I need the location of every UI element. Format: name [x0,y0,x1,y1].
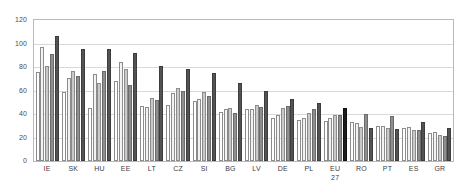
x-axis-label-line1: EU [330,165,340,172]
y-axis-tick-100: 100 [15,39,27,46]
bar-EE-2012 [133,53,137,161]
x-axis-label-line1: LV [252,165,260,172]
bar-EE-2000 [119,62,123,161]
bar-HU-2012 [107,49,111,161]
x-axis-label-RO: RO [348,164,374,193]
bar-HU-2009 [102,71,106,161]
bar-DE-2005 [281,108,285,161]
bar-BG-2012 [238,83,242,161]
x-axis-label-line1: LT [148,165,156,172]
bar-LV-2000 [250,109,254,161]
x-axis-label-BG: BG [217,164,243,193]
bar-EU-27-2012 [343,108,347,161]
bar-BG-1995 [219,112,223,161]
x-axis-labels: IESKHUEELTCZSIBGLVDEPLEU27ROPTESGR [34,164,453,193]
bar-ES-1995 [402,128,406,161]
bar-EE-1995 [114,81,118,161]
bar-HU-2000 [93,74,97,161]
bar-IE-1995 [36,72,40,161]
x-axis-label-line1: BG [225,165,236,172]
bar-CZ-2000 [171,93,175,161]
x-axis-label-line1: EE [121,165,131,172]
x-axis-label-IE: IE [34,164,60,193]
bar-group-ES [401,20,427,161]
bar-GR-2005 [438,135,442,161]
bar-LT-2000 [145,107,149,161]
bar-CZ-2009 [181,91,185,162]
bar-RO-1995 [350,122,354,161]
x-axis-label-line1: PL [304,165,313,172]
bar-SK-1995 [62,92,66,161]
x-axis-label-PT: PT [374,164,400,193]
bar-PL-2000 [302,118,306,161]
bar-chart: 19952000200520092012 020406080100120 IES… [0,0,463,193]
x-axis-label-HU: HU [86,164,112,193]
y-axis-labels: 020406080100120 [0,19,31,162]
x-axis-label-SK: SK [60,164,86,193]
bar-ES-2005 [412,130,416,161]
bar-EU-27-2009 [338,115,342,161]
bar-BG-2000 [224,109,228,161]
bar-group-IE [34,20,60,161]
bar-DE-2000 [276,115,280,161]
bar-group-LT [139,20,165,161]
bar-LT-2005 [150,98,154,161]
x-axis-label-line1: SI [201,165,208,172]
bar-group-EE [113,20,139,161]
bar-group-RO [348,20,374,161]
y-axis-tick-20: 20 [19,133,27,140]
bar-CZ-2005 [176,88,180,161]
bar-ES-2012 [421,122,425,161]
bar-DE-1995 [271,118,275,161]
bar-EU-27-2005 [333,115,337,161]
bar-group-LV [244,20,270,161]
x-axis-label-line1: HU [94,165,105,172]
bar-LT-2009 [155,100,159,161]
bar-group-DE [270,20,296,161]
bar-group-SK [60,20,86,161]
bar-EE-2005 [124,69,128,161]
bar-IE-2000 [40,47,44,161]
bar-GR-2012 [447,128,451,161]
x-axis-label-line1: IE [44,165,51,172]
bar-PT-1995 [376,126,380,161]
bar-PL-2005 [307,113,311,161]
x-axis-label-ES: ES [401,164,427,193]
bar-group-GR [427,20,453,161]
x-axis-label-EU-27: EU27 [322,164,348,193]
bar-RO-2000 [355,123,359,161]
bar-LV-1995 [245,109,249,161]
bar-SI-2005 [202,92,206,161]
x-axis-label-line1: CZ [173,165,183,172]
x-axis-label-line2: 27 [322,173,348,182]
bar-BG-2009 [233,113,237,161]
bar-PT-2005 [386,128,390,161]
bar-CZ-1995 [166,105,170,161]
bar-RO-2009 [364,114,368,161]
bar-IE-2012 [55,36,59,161]
bar-LT-1995 [140,106,144,161]
x-axis-label-line1: ES [409,165,419,172]
bars-container [34,20,453,161]
bar-PL-2009 [312,109,316,161]
bar-SK-2000 [67,78,71,161]
bar-SI-2009 [207,96,211,161]
x-axis-label-line1: PT [383,165,392,172]
bar-CZ-2012 [186,69,190,161]
bar-ES-2000 [407,127,411,161]
bar-PL-2012 [317,103,321,161]
bar-SI-2012 [212,73,216,161]
x-axis-label-DE: DE [270,164,296,193]
x-axis-label-GR: GR [427,164,453,193]
y-axis-tick-0: 0 [23,157,27,164]
bar-group-BG [217,20,243,161]
bar-EE-2009 [128,85,132,161]
bar-group-CZ [165,20,191,161]
x-axis-label-LV: LV [244,164,270,193]
bar-group-EU-27 [322,20,348,161]
y-axis-tick-120: 120 [15,16,27,23]
bar-SI-1995 [193,101,197,161]
bar-IE-2005 [45,66,49,161]
bar-EU-27-2000 [328,118,332,161]
bar-IE-2009 [50,54,54,161]
